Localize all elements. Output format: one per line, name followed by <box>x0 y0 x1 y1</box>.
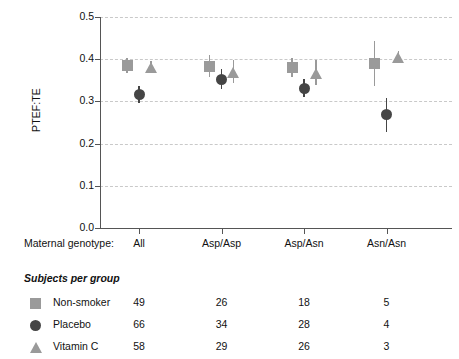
table-cell-count: 28 <box>284 318 324 330</box>
x-category-label: All <box>133 237 145 249</box>
x-tick-mark <box>139 228 140 234</box>
y-tick-label: 0.2 <box>60 138 94 149</box>
y-tick-label: 0.3 <box>60 95 94 106</box>
legend-label: Placebo <box>53 318 91 330</box>
x-tick-mark <box>222 228 223 234</box>
table-row: Non-smoker4926185 <box>0 294 459 314</box>
data-point-square <box>204 61 215 72</box>
x-tick-mark <box>387 228 388 234</box>
table-cell-count: 29 <box>202 340 242 352</box>
legend-swatch-square <box>30 298 41 309</box>
table-cell-count: 3 <box>367 340 407 352</box>
table-cell-count: 5 <box>367 296 407 308</box>
grid-line <box>100 144 452 145</box>
y-axis-title: PTEF:TE <box>30 50 42 170</box>
grid-line <box>100 17 452 18</box>
table-row: Placebo6634284 <box>0 316 459 336</box>
data-point-circle <box>381 109 392 120</box>
data-point-square <box>287 62 298 73</box>
y-axis-line <box>100 17 101 228</box>
y-tick-label: 0.5 <box>60 11 94 22</box>
table-cell-count: 49 <box>119 296 159 308</box>
data-point-triangle <box>310 68 322 79</box>
table-cell-count: 66 <box>119 318 159 330</box>
y-tick-label: 0.4 <box>60 53 94 64</box>
table-cell-count: 26 <box>284 340 324 352</box>
data-point-circle <box>216 74 227 85</box>
grid-line <box>100 186 452 187</box>
data-point-circle <box>299 83 310 94</box>
legend-swatch-circle <box>30 320 41 331</box>
figure-panel: PTEF:TE 0.50.40.30.20.10.0 Maternal geno… <box>0 0 459 359</box>
table-cell-count: 58 <box>119 340 159 352</box>
x-axis-label-prefix: Maternal genotype: <box>24 237 114 249</box>
table-cell-count: 4 <box>367 318 407 330</box>
x-tick-mark <box>304 228 305 234</box>
y-tick-label: 0.0 <box>60 222 94 233</box>
legend-label: Vitamin C <box>53 340 98 352</box>
legend-swatch-triangle <box>30 342 42 353</box>
table-cell-count: 18 <box>284 296 324 308</box>
plot-area: PTEF:TE 0.50.40.30.20.10.0 <box>0 0 459 245</box>
table-cell-count: 34 <box>202 318 242 330</box>
data-point-square <box>122 60 133 71</box>
data-point-circle <box>134 89 145 100</box>
x-category-label: Asp/Asn <box>284 237 323 249</box>
x-category-label: Asn/Asn <box>367 237 406 249</box>
y-tick-label: 0.1 <box>60 180 94 191</box>
table-row: Vitamin C5829263 <box>0 338 459 358</box>
x-axis-line <box>100 228 452 229</box>
data-point-square <box>369 58 380 69</box>
data-point-triangle <box>392 52 404 63</box>
x-category-label: Asp/Asp <box>202 237 241 249</box>
legend-label: Non-smoker <box>53 296 110 308</box>
data-point-triangle <box>145 62 157 73</box>
data-point-triangle <box>227 67 239 78</box>
table-title: Subjects per group <box>24 272 120 284</box>
table-cell-count: 26 <box>202 296 242 308</box>
grid-line <box>100 101 452 102</box>
